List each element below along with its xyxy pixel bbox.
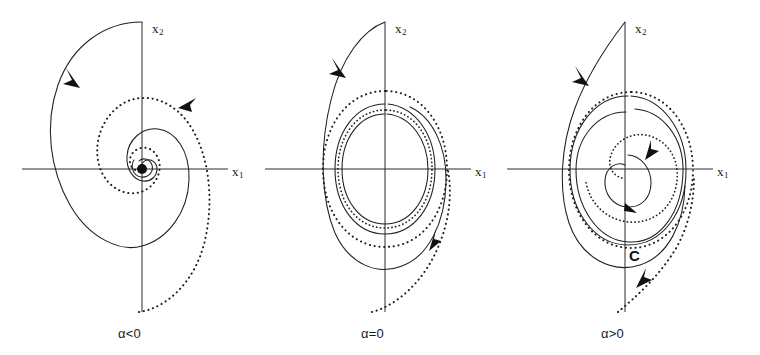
limit-cycle-label: C xyxy=(629,248,640,263)
solid-orbit-outer xyxy=(570,96,686,245)
panel-caption-alpha-zero: α=0 xyxy=(361,327,384,340)
x1-axis-label: x1 xyxy=(232,165,244,180)
solid-orbit-second xyxy=(576,109,683,242)
flow-direction-arrow-limit-cycle xyxy=(636,268,652,288)
flow-direction-arrow-dotted xyxy=(429,228,441,251)
hopf-bifurcation-figure: x2 x1 α<0 xyxy=(0,0,760,355)
panel-alpha-negative: x2 x1 α<0 xyxy=(0,0,253,355)
equilibrium-point xyxy=(137,164,147,174)
solid-spiral-trajectory xyxy=(50,22,189,247)
x2-axis-label: x2 xyxy=(152,22,164,37)
x2-axis-label: x2 xyxy=(395,22,407,37)
dotted-spiral-trajectory xyxy=(97,98,209,312)
phase-portrait-alpha-positive xyxy=(485,0,738,355)
x1-axis-label: x1 xyxy=(717,165,729,180)
flow-direction-arrow-inner-lower xyxy=(618,203,637,213)
phase-portrait-alpha-zero xyxy=(243,0,496,355)
panel-alpha-zero: x2 x1 α=0 xyxy=(243,0,496,355)
flow-direction-arrow-solid xyxy=(63,68,80,88)
panel-alpha-positive: x2 x1 C α>0 xyxy=(485,0,738,355)
phase-portrait-alpha-negative xyxy=(0,0,253,355)
flow-direction-arrow-inner-upper xyxy=(645,140,659,160)
panel-caption-alpha-positive: α>0 xyxy=(601,327,624,340)
flow-direction-arrow-dotted xyxy=(178,98,196,112)
flow-direction-arrow-solid xyxy=(329,58,346,78)
flow-direction-arrow-solid xyxy=(572,66,589,86)
solid-inner-spiral xyxy=(605,155,651,207)
panel-caption-alpha-negative: α<0 xyxy=(118,327,141,340)
x2-axis-label: x2 xyxy=(635,22,647,37)
